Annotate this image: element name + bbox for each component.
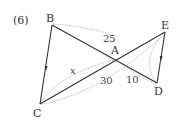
measure-30: 30 <box>100 75 113 86</box>
geometry-diagram: (6) B E A C D 25 x 30 10 <box>0 0 179 125</box>
problem-number: (6) <box>13 14 29 27</box>
measure-ad: 10 <box>126 74 139 85</box>
point-label-b: B <box>46 12 54 25</box>
measure-ba: 25 <box>103 33 116 44</box>
point-label-c: C <box>33 107 41 120</box>
arc-ce-30 <box>42 38 160 104</box>
measure-ca: x <box>70 65 76 76</box>
point-label-a: A <box>110 44 120 57</box>
point-label-d: D <box>154 85 163 98</box>
segment-bc <box>40 25 52 104</box>
point-label-e: E <box>161 19 169 32</box>
